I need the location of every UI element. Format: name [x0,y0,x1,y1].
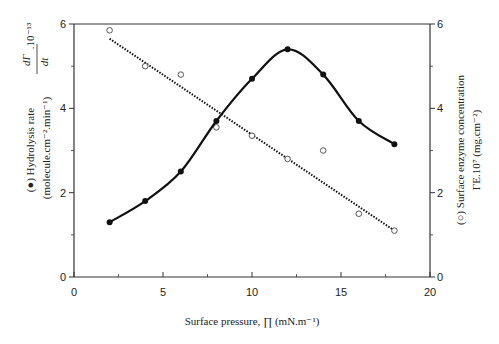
hydrolysis-point [285,46,291,52]
enzyme-point [392,228,398,234]
y-right-tick-label: 2 [437,187,443,199]
x-ticks: 05101520 [71,272,436,298]
y-right-axis-title: (○) Surface enzyme concentration ΓE.10⁷ … [454,75,483,225]
y-left-tick-label: 4 [60,102,66,114]
y-right-title-line1: (○) Surface enzyme concentration [454,75,467,225]
y-left-tick-label: 6 [60,18,66,30]
y-left-multiplier: .10⁻¹³ [24,22,36,49]
y-left-title-line2: (molecule.cm⁻².min⁻¹) [40,97,53,200]
hydrolysis-point [142,198,148,204]
y-right-tick-label: 4 [437,102,443,114]
y-left-ticks: 0246 [60,18,74,283]
y-left-axis-title: (●) Hydrolysis rate (molecule.cm⁻².min⁻¹… [20,22,53,199]
chart: 05101520 0246 0246 Surface pressure, ∏ (… [0,0,499,344]
x-tick-label: 20 [424,286,436,298]
enzyme-point [142,63,148,69]
hydrolysis-point [107,219,113,225]
y-right-tick-label: 6 [437,18,443,30]
enzyme-point [320,148,326,154]
enzyme-point [285,156,291,162]
enzyme-point [356,211,362,217]
x-tick-label: 15 [335,286,347,298]
hydrolysis-point [391,141,397,147]
hydrolysis-point [213,118,219,124]
series-enzyme-concentration [107,28,397,234]
y-right-title-line2: ΓE.10⁷ (mg.cm⁻²) [470,110,483,191]
y-left-tick-label: 0 [60,271,66,283]
x-tick-label: 10 [246,286,258,298]
y-left-title-line1: (●) Hydrolysis rate [24,108,37,192]
y-left-fraction-den: dt [38,57,50,67]
y-right-ticks: 0246 [430,18,443,283]
y-right-tick-label: 0 [437,271,443,283]
enzyme-point [178,72,184,78]
x-axis-title: Surface pressure, ∏ (mN.m⁻¹) [185,315,320,328]
hydrolysis-point [249,76,255,82]
hydrolysis-point [356,118,362,124]
hydrolysis-point [320,72,326,78]
enzyme-point [249,133,255,139]
plot-frame [74,24,430,277]
y-left-fraction-num: dΓ [20,53,32,66]
x-tick-label: 5 [160,286,166,298]
x-tick-label: 0 [71,286,77,298]
enzyme-point [107,28,113,34]
y-left-tick-label: 2 [60,187,66,199]
hydrolysis-point [178,169,184,175]
